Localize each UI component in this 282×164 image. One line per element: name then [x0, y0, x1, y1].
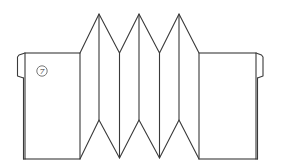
fold-bottom-edge [80, 120, 199, 159]
right-panel [199, 53, 258, 159]
accordion-fold-diagram: 7 [0, 0, 282, 164]
fold-creases [99, 14, 179, 158]
circled-number-label: 7 [37, 66, 47, 76]
right-tab [256, 53, 263, 78]
left-tab [18, 53, 26, 78]
left-panel [24, 53, 81, 159]
